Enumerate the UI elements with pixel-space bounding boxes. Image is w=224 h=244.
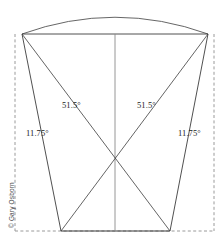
- top-arc-curve: [22, 17, 208, 34]
- apex-angle-label-left: 51.5°: [62, 100, 81, 110]
- apex-angle-label-right: 51.5°: [137, 100, 156, 110]
- side-angle-label-left: 11.75°: [26, 128, 49, 138]
- pyramid-cross-section-figure: 51.5° 51.5° 11.75° 11.75° © Gary Osborn: [0, 0, 224, 244]
- diagram-canvas: 51.5° 51.5° 11.75° 11.75° © Gary Osborn: [0, 0, 224, 244]
- side-angle-label-right: 11.75°: [178, 128, 201, 138]
- copyright-credit-label: © Gary Osborn: [8, 182, 16, 228]
